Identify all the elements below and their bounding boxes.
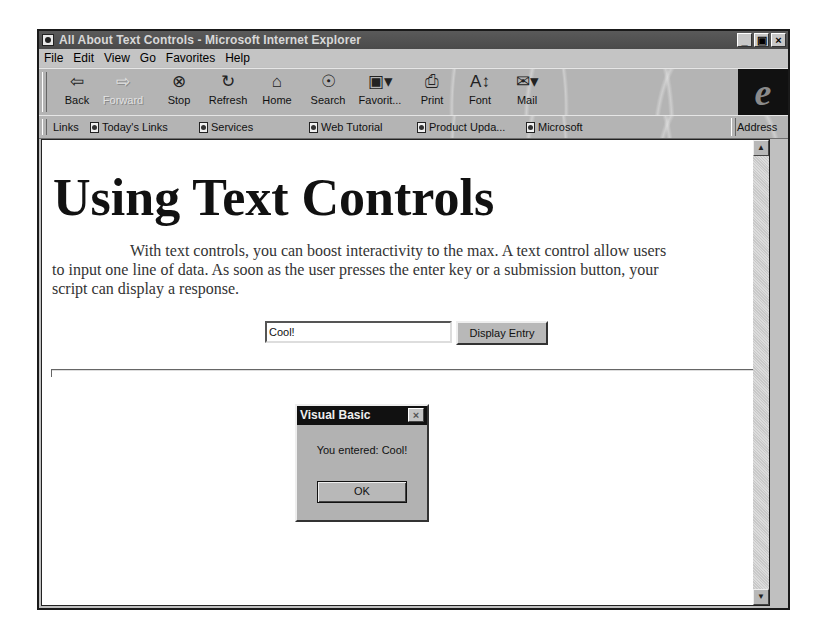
page-icon (199, 122, 208, 133)
address-grip[interactable] (731, 118, 736, 136)
print-icon: ⎙ (415, 71, 449, 93)
stop-icon: ⊗ (164, 71, 194, 93)
close-button[interactable]: × (771, 33, 786, 47)
links-bar: Links Today's Links Services Web Tutoria… (39, 115, 788, 139)
forward-button[interactable]: ⇨ Forward (101, 71, 145, 113)
horizontal-rule-edge (51, 369, 52, 377)
menu-help[interactable]: Help (220, 49, 255, 67)
title-bar: All About Text Controls - Microsoft Inte… (39, 31, 788, 49)
toolbar-grip[interactable] (42, 72, 47, 112)
window-title: All About Text Controls - Microsoft Inte… (59, 31, 361, 49)
back-arrow-icon: ⇦ (59, 71, 95, 93)
mail-button[interactable]: ✉▾ Mail (510, 71, 544, 113)
text-entry-input[interactable]: Cool! (265, 321, 452, 343)
search-icon: ☉ (306, 71, 350, 93)
ok-button[interactable]: OK (317, 481, 407, 503)
menu-edit[interactable]: Edit (68, 49, 99, 67)
link-product-updates[interactable]: Product Upda... (417, 116, 505, 138)
favorites-icon: ▣▾ (355, 71, 405, 93)
print-button[interactable]: ⎙ Print (415, 71, 449, 113)
scroll-down-button[interactable]: ▼ (753, 589, 769, 605)
home-button[interactable]: ⌂ Home (258, 71, 296, 113)
vertical-scrollbar[interactable]: ▲ ▼ (753, 140, 769, 605)
maximize-button[interactable]: ▣ (754, 33, 769, 47)
menu-go[interactable]: Go (135, 49, 161, 67)
page-title: Using Text Controls (53, 168, 494, 227)
links-grip[interactable] (42, 119, 47, 135)
dialog-close-button[interactable]: × (408, 408, 424, 422)
favorites-button[interactable]: ▣▾ Favorit... (355, 71, 405, 113)
horizontal-rule (51, 369, 766, 371)
ie-logo-icon: e (738, 69, 788, 115)
menu-view[interactable]: View (99, 49, 135, 67)
page-icon (526, 122, 535, 133)
menu-file[interactable]: File (39, 49, 68, 67)
mail-icon: ✉▾ (510, 71, 544, 93)
refresh-button[interactable]: ↻ Refresh (204, 71, 252, 113)
menu-favorites[interactable]: Favorites (161, 49, 220, 67)
refresh-icon: ↻ (204, 71, 252, 93)
page-icon (309, 122, 318, 133)
minimize-button[interactable]: _ (737, 33, 752, 47)
menu-bar: File Edit View Go Favorites Help (39, 49, 788, 67)
address-label[interactable]: Address (737, 116, 777, 138)
home-icon: ⌂ (258, 71, 296, 93)
dialog-title-text: Visual Basic (300, 408, 371, 422)
font-button[interactable]: A↕ Font (465, 71, 495, 113)
forward-arrow-icon: ⇨ (101, 71, 145, 93)
dialog-title: Visual Basic × (297, 406, 427, 425)
display-entry-button[interactable]: Display Entry (456, 321, 548, 345)
font-icon: A↕ (465, 71, 495, 93)
link-microsoft[interactable]: Microsoft (526, 116, 583, 138)
page-icon (90, 122, 99, 133)
ie-window-icon[interactable] (42, 34, 54, 46)
page-content: Using Text Controls With text controls, … (41, 139, 770, 606)
scroll-up-button[interactable]: ▲ (753, 140, 769, 156)
link-todays-links[interactable]: Today's Links (90, 116, 168, 138)
link-services[interactable]: Services (199, 116, 253, 138)
back-button[interactable]: ⇦ Back (59, 71, 95, 113)
stop-button[interactable]: ⊗ Stop (164, 71, 194, 113)
link-web-tutorial[interactable]: Web Tutorial (309, 116, 383, 138)
intro-paragraph: With text controls, you can boost intera… (52, 241, 672, 298)
browser-window: All About Text Controls - Microsoft Inte… (37, 29, 790, 610)
dialog-message: You entered: Cool! (297, 444, 427, 456)
message-box-dialog: Visual Basic × You entered: Cool! OK (295, 404, 429, 522)
standard-toolbar: ⇦ Back ⇨ Forward ⊗ Stop ↻ Refresh ⌂ Home… (39, 68, 788, 116)
page-icon (417, 122, 426, 133)
links-label[interactable]: Links (53, 116, 79, 138)
search-button[interactable]: ☉ Search (306, 71, 350, 113)
